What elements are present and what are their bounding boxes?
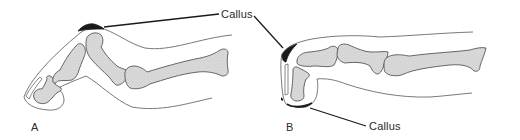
panel-b-bone-middle (297, 46, 338, 66)
panel-a-callus (78, 24, 104, 31)
panel-a-leader-line (104, 14, 219, 27)
toe-callus-diagram: Callus Callus A B (0, 0, 520, 140)
diagram-artwork (0, 0, 520, 140)
panel-b-leader-line-bottom (310, 108, 366, 126)
panel-b-skin-upper (282, 32, 473, 54)
panel-b-bone-proximal (337, 44, 388, 74)
panel-a-bone-middle (53, 44, 86, 83)
panel-b-toe (281, 32, 486, 126)
panel-a-callus-label: Callus (221, 9, 253, 20)
panel-b-bone-metatarsal (384, 48, 486, 76)
panel-b-letter: B (286, 122, 293, 133)
panel-a-toe (24, 14, 232, 110)
panel-a-bone-metatarsal (125, 49, 228, 89)
panel-a-letter: A (31, 122, 38, 133)
panel-b-nail (285, 64, 288, 95)
panel-b-bone-distal (291, 67, 310, 101)
panel-a-bone-proximal (86, 33, 128, 85)
panel-b-callus-tip-mark (281, 97, 283, 101)
panel-b-leader-line-top (254, 16, 283, 48)
panel-b-callus-label: Callus (369, 121, 401, 132)
